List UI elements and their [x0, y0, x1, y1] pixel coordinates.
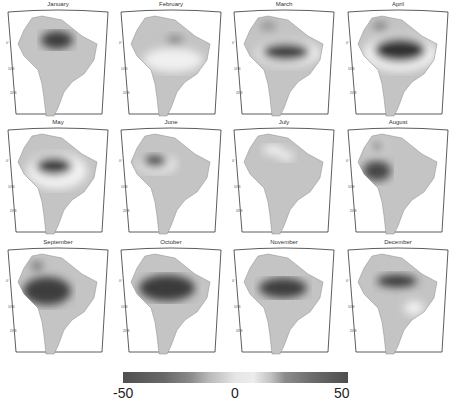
svg-text:10°S: 10°S: [121, 305, 128, 309]
svg-text:0°: 0°: [232, 41, 236, 45]
svg-text:10°S: 10°S: [8, 67, 15, 71]
south-america-map: 0°10°S20°S: [228, 126, 340, 236]
panel-title: August: [342, 118, 454, 126]
map-panel-september: September0°10°S20°S: [2, 238, 114, 356]
svg-text:0°: 0°: [119, 279, 123, 283]
colorbar-max-label: 50: [334, 385, 350, 401]
svg-text:10°S: 10°S: [234, 67, 241, 71]
svg-text:10°S: 10°S: [348, 185, 355, 189]
svg-text:20°S: 20°S: [350, 329, 357, 333]
svg-text:20°S: 20°S: [350, 91, 357, 95]
svg-text:10°S: 10°S: [121, 67, 128, 71]
panel-title: December: [342, 238, 454, 246]
svg-text:20°S: 20°S: [10, 91, 17, 95]
map-panel-july: July0°10°S20°S: [228, 118, 340, 236]
svg-text:10°S: 10°S: [8, 305, 15, 309]
svg-text:10°S: 10°S: [348, 67, 355, 71]
panel-title: May: [2, 118, 114, 126]
colorbar-min-label: -50: [113, 385, 133, 401]
svg-text:10°S: 10°S: [121, 185, 128, 189]
panel-title: July: [228, 118, 340, 126]
south-america-map: 0°10°S20°S: [2, 8, 114, 118]
svg-text:10°S: 10°S: [234, 305, 241, 309]
south-america-map: 0°10°S20°S: [228, 246, 340, 356]
map-panel-april: April0°10°S20°S: [342, 0, 454, 118]
panel-title: June: [115, 118, 227, 126]
svg-text:20°S: 20°S: [350, 209, 357, 213]
svg-text:0°: 0°: [346, 279, 350, 283]
south-america-map: 0°10°S20°S: [2, 246, 114, 356]
map-panel-may: May0°10°S20°S: [2, 118, 114, 236]
svg-text:20°S: 20°S: [236, 329, 243, 333]
south-america-map: 0°10°S20°S: [115, 8, 227, 118]
south-america-map: 0°10°S20°S: [342, 126, 454, 236]
svg-text:20°S: 20°S: [10, 209, 17, 213]
south-america-map: 0°10°S20°S: [228, 8, 340, 118]
svg-text:0°: 0°: [346, 41, 350, 45]
south-america-map: 0°10°S20°S: [115, 126, 227, 236]
south-america-map: 0°10°S20°S: [2, 126, 114, 236]
panel-title: April: [342, 0, 454, 8]
map-panel-august: August0°10°S20°S: [342, 118, 454, 236]
svg-text:20°S: 20°S: [123, 91, 130, 95]
svg-text:0°: 0°: [119, 41, 123, 45]
south-america-map: 0°10°S20°S: [342, 246, 454, 356]
svg-text:0°: 0°: [346, 159, 350, 163]
svg-text:0°: 0°: [232, 279, 236, 283]
panel-title: September: [2, 238, 114, 246]
svg-text:20°S: 20°S: [123, 329, 130, 333]
colorbar-zero-label: 0: [231, 385, 239, 401]
svg-text:0°: 0°: [6, 279, 10, 283]
map-panel-november: November0°10°S20°S: [228, 238, 340, 356]
svg-text:10°S: 10°S: [348, 305, 355, 309]
map-panel-december: December0°10°S20°S: [342, 238, 454, 356]
colorbar: [123, 372, 348, 383]
panel-title: October: [115, 238, 227, 246]
svg-text:10°S: 10°S: [8, 185, 15, 189]
svg-text:20°S: 20°S: [236, 91, 243, 95]
map-panel-october: October0°10°S20°S: [115, 238, 227, 356]
svg-text:20°S: 20°S: [10, 329, 17, 333]
svg-text:10°S: 10°S: [234, 185, 241, 189]
map-panel-march: March0°10°S20°S: [228, 0, 340, 118]
south-america-map: 0°10°S20°S: [115, 246, 227, 356]
panel-title: January: [2, 0, 114, 8]
panel-title: February: [115, 0, 227, 8]
svg-text:0°: 0°: [232, 159, 236, 163]
svg-text:20°S: 20°S: [123, 209, 130, 213]
panel-title: November: [228, 238, 340, 246]
svg-text:0°: 0°: [6, 41, 10, 45]
south-america-map: 0°10°S20°S: [342, 8, 454, 118]
map-panel-january: January0°10°S20°S: [2, 0, 114, 118]
panel-title: March: [228, 0, 340, 8]
svg-text:0°: 0°: [119, 159, 123, 163]
svg-text:20°S: 20°S: [236, 209, 243, 213]
svg-text:0°: 0°: [6, 159, 10, 163]
map-panel-june: June0°10°S20°S: [115, 118, 227, 236]
map-panel-february: February0°10°S20°S: [115, 0, 227, 118]
